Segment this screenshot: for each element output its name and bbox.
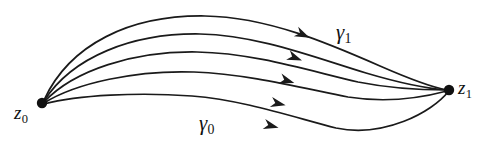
label-gamma0: γ0 (199, 113, 214, 137)
arrowhead-curve-1 (294, 27, 312, 43)
label-gamma1: γ1 (336, 22, 351, 46)
endpoint-dot-z0 (37, 98, 47, 108)
endpoint-dot-z1 (444, 85, 454, 95)
path-curve-2 (44, 34, 447, 101)
path-curve-5 (44, 92, 448, 130)
arrowhead-curve-5 (263, 119, 280, 133)
label-z1: z1 (458, 78, 472, 101)
figure-canvas (0, 0, 500, 153)
label-gamma1-subscript: 1 (344, 31, 351, 46)
label-z0-subscript: 0 (21, 112, 28, 126)
label-z1-subscript: 1 (465, 87, 472, 101)
curves-group (44, 16, 448, 130)
label-z0: z0 (14, 103, 28, 126)
label-gamma0-subscript: 0 (207, 122, 214, 137)
arrowhead-curve-4 (270, 97, 287, 111)
homotopy-paths-figure: z0 z1 γ1 γ0 (0, 0, 500, 153)
arrowheads-group (263, 27, 312, 133)
